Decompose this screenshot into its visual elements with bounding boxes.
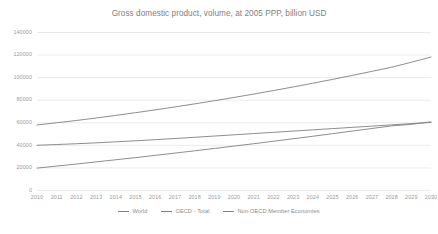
legend-item[interactable]: Non-OECD Member Economies (223, 208, 319, 214)
x-axis-tick-label: 2015 (125, 194, 147, 200)
x-axis-tick-label: 2019 (203, 194, 225, 200)
y-axis-tick-label: 140000 (0, 29, 32, 35)
x-axis-tick-label: 2028 (381, 194, 403, 200)
y-axis-tick-label: 0 (0, 187, 32, 193)
legend-item-label: Non-OECD Member Economies (237, 208, 319, 214)
legend-item-label: World (132, 208, 147, 214)
x-axis-tick-label: 2011 (46, 194, 68, 200)
x-axis-tick-label: 2014 (105, 194, 127, 200)
x-axis-tick-label: 2029 (400, 194, 422, 200)
legend-line-swatch (118, 211, 129, 212)
y-axis-tick-label: 40000 (0, 142, 32, 148)
legend-item[interactable]: World (118, 208, 147, 214)
plot-area: 020000400006000080000100000120000140000 … (0, 0, 438, 234)
series-lines (37, 57, 431, 168)
x-axis-tick-label: 2022 (262, 194, 284, 200)
x-axis-tick-label: 2024 (302, 194, 324, 200)
x-axis-tick-label: 2021 (243, 194, 265, 200)
x-axis-tick-label: 2026 (341, 194, 363, 200)
x-axis-tick-label: 2025 (322, 194, 344, 200)
legend-item-label: OECD - Total (175, 208, 209, 214)
x-axis-tick-label: 2017 (164, 194, 186, 200)
series-line (37, 122, 431, 145)
y-axis-tick-label: 60000 (0, 119, 32, 125)
legend-line-swatch (223, 211, 234, 212)
y-axis-tick-label: 120000 (0, 51, 32, 57)
x-axis-tick-label: 2020 (223, 194, 245, 200)
chart-legend: WorldOECD - TotalNon-OECD Member Economi… (0, 208, 438, 214)
series-line (37, 57, 431, 125)
x-axis-tick-label: 2027 (361, 194, 383, 200)
y-axis-tick-label: 80000 (0, 96, 32, 102)
series-line (37, 122, 431, 168)
x-axis-tick-label: 2023 (282, 194, 304, 200)
x-axis-tick-label: 2012 (65, 194, 87, 200)
x-axis-tick-label: 2010 (26, 194, 48, 200)
legend-item[interactable]: OECD - Total (161, 208, 209, 214)
x-axis-tick-label: 2030 (420, 194, 438, 200)
y-axis-tick-label: 100000 (0, 74, 32, 80)
legend-line-swatch (161, 211, 172, 212)
x-axis-tick-label: 2013 (85, 194, 107, 200)
x-axis-tick-label: 2016 (144, 194, 166, 200)
y-axis-tick-label: 20000 (0, 164, 32, 170)
gridlines (37, 33, 431, 191)
x-axis-tick-label: 2018 (184, 194, 206, 200)
gdp-line-chart: Gross domestic product, volume, at 2005 … (0, 0, 438, 234)
